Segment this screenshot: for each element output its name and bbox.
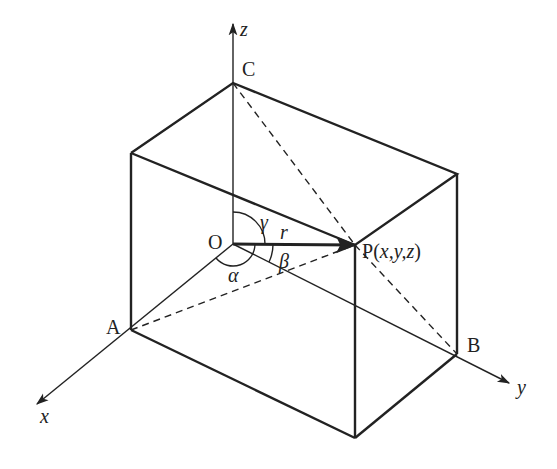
- diagram-canvas: z x y C O A B P(x,y,z) r γ β α: [0, 0, 557, 469]
- z-axis-label: z: [239, 18, 248, 40]
- beta-label: β: [278, 250, 289, 273]
- y-axis: [233, 244, 509, 383]
- edge-bottom-right: [355, 354, 457, 438]
- y-axis-label: y: [515, 376, 526, 399]
- point-p-letter: P: [362, 240, 373, 262]
- point-p-label: P(x,y,z): [362, 240, 421, 263]
- vector-r: [233, 244, 355, 245]
- dashed-lines: [131, 83, 457, 354]
- coordinate-box-diagram: z x y C O A B P(x,y,z) r γ β α: [0, 0, 557, 469]
- vector-r-label: r: [280, 221, 288, 243]
- point-a-label: A: [106, 316, 121, 338]
- x-axis: [37, 244, 233, 404]
- gamma-label: γ: [260, 211, 269, 234]
- beta-arc: [269, 244, 273, 262]
- edge-bottom-left: [131, 330, 355, 438]
- axes: [37, 24, 509, 404]
- point-o-label: O: [208, 231, 222, 253]
- alpha-label: α: [228, 264, 239, 286]
- x-axis-label: x: [39, 405, 49, 427]
- point-c-label: C: [242, 58, 255, 80]
- point-b-label: B: [467, 334, 480, 356]
